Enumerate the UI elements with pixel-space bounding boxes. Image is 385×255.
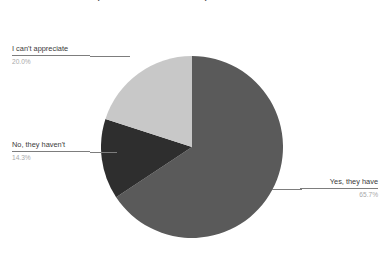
callout-i-cant-appreciate: I can't appreciate 20.0% <box>12 44 90 67</box>
callout-label: I can't appreciate <box>12 44 90 55</box>
leader-line-i-cant-appreciate <box>90 56 130 57</box>
pie-slices <box>101 56 283 238</box>
chart-title: audience compared to those that are not … <box>0 0 385 2</box>
pie-chart <box>101 56 283 238</box>
callout-percent: 14.3% <box>12 152 90 163</box>
callout-label: Yes, they have <box>300 177 378 188</box>
callout-percent: 20.0% <box>12 56 90 67</box>
pie-chart-screenshot: audience compared to those that are not … <box>0 0 385 255</box>
callout-label: No, they haven't <box>12 140 90 151</box>
callout-percent: 65.7% <box>300 189 378 200</box>
callout-yes-they-have: Yes, they have 65.7% <box>300 177 378 200</box>
callout-no-they-havent: No, they haven't 14.3% <box>12 140 90 163</box>
leader-line-no-they-havent <box>90 152 117 153</box>
leader-line-yes-they-have <box>272 189 302 190</box>
pie-svg <box>101 56 283 238</box>
